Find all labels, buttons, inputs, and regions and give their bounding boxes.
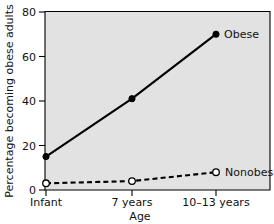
obesity-line-chart: 80 60 40 20 0 Percentage becoming obese … [0,0,274,224]
x-tick-label-7-years: 7 years [112,196,153,209]
y-tick-label-80: 80 [22,6,36,19]
x-tick-label-infant: Infant [30,196,63,209]
y-axis-title: Percentage becoming obese adults [3,4,16,198]
series-obese-label: Obese [224,28,259,41]
y-tick-label-60: 60 [22,51,36,64]
series-nonobese-point-10-13-years [213,169,220,176]
series-obese-point-10-13-years [213,31,219,37]
y-axis-ticks [39,12,45,190]
y-tick-label-20: 20 [22,140,36,153]
x-tick-label-10-13-years: 10–13 years [182,196,250,209]
series-nonobese-point-infant [43,180,50,187]
series-nonobese-point-7-years [129,178,136,185]
series-obese-point-7-years [129,96,135,102]
y-tick-label-40: 40 [22,95,36,108]
x-axis-title: Age [129,210,151,223]
chart-figure: 80 60 40 20 0 Percentage becoming obese … [0,0,274,224]
series-nonobese-label: Nonobese [225,166,274,179]
series-obese-point-infant [43,154,49,160]
